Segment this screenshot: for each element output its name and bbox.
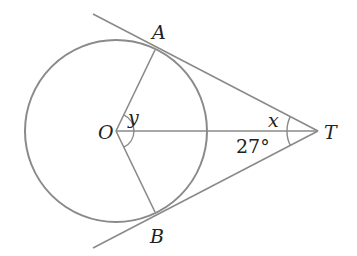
angle-arc-27 xyxy=(287,131,290,145)
point-label-a: A xyxy=(150,21,166,43)
tangent-circle-diagram: A B O T y x 27° xyxy=(0,0,357,256)
angle-arc-x xyxy=(287,117,290,131)
point-label-b: B xyxy=(149,225,164,247)
angle-label-x: x xyxy=(268,109,279,131)
angle-label-y: y xyxy=(127,106,139,128)
point-label-o: O xyxy=(98,121,114,143)
point-label-t: T xyxy=(324,121,338,143)
radius-ob xyxy=(116,131,155,212)
angle-label-27: 27° xyxy=(236,135,270,157)
